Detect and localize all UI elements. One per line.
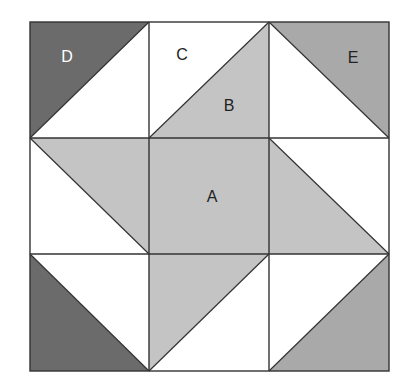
label-d: D xyxy=(61,48,73,65)
quilt-diagram: D C E B A xyxy=(0,0,409,391)
label-b: B xyxy=(224,97,235,114)
label-a: A xyxy=(207,188,218,205)
label-c: C xyxy=(176,46,188,63)
label-e: E xyxy=(348,49,359,66)
